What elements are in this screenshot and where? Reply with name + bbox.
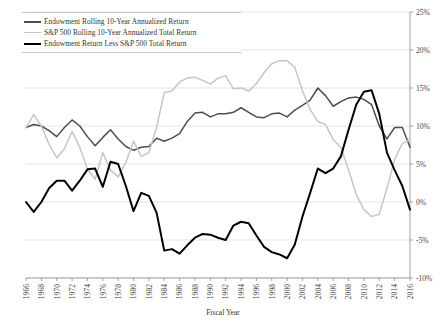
legend-label-endowment: Endowment Rolling 10-Year Annualized Ret… bbox=[44, 16, 189, 27]
x-tick-label: 1976 bbox=[99, 284, 108, 299]
legend-swatch-endowment bbox=[24, 21, 41, 23]
chart-legend: Endowment Rolling 10-Year Annualized Ret… bbox=[22, 12, 241, 53]
legend-item-endowment: Endowment Rolling 10-Year Annualized Ret… bbox=[24, 16, 239, 27]
x-tick-label: 2004 bbox=[314, 284, 323, 299]
x-tick-label: 2006 bbox=[329, 284, 338, 299]
legend-swatch-difference bbox=[24, 43, 41, 45]
x-tick-label: 1998 bbox=[268, 284, 277, 299]
x-tick-label: 2010 bbox=[360, 284, 369, 299]
x-tick-label: 1984 bbox=[160, 284, 169, 299]
legend-label-sp500: S&P 500 Rolling 10-Year Annualized Total… bbox=[44, 27, 197, 38]
x-tick-label: 1980 bbox=[129, 284, 138, 299]
x-tick-label: 1992 bbox=[221, 284, 230, 299]
y-tick-label: 5% bbox=[416, 160, 427, 169]
y-tick-label: 10% bbox=[416, 122, 431, 131]
y-tick-label: 25% bbox=[416, 8, 431, 17]
x-tick-label: 1988 bbox=[191, 284, 200, 299]
legend-swatch-sp500 bbox=[24, 32, 41, 33]
x-tick-label: 1994 bbox=[237, 284, 246, 299]
x-tick-label: 1968 bbox=[37, 284, 46, 299]
series-line-1 bbox=[26, 61, 410, 217]
legend-item-difference: Endowment Return Less S&P 500 Total Retu… bbox=[24, 38, 239, 49]
x-tick-label: 1974 bbox=[83, 284, 92, 299]
x-tick-label: 1966 bbox=[22, 284, 31, 299]
x-tick-label: 2012 bbox=[375, 284, 384, 299]
x-tick-label: 2016 bbox=[406, 284, 415, 299]
y-tick-label: 20% bbox=[416, 46, 431, 55]
y-tick-label: 15% bbox=[416, 84, 431, 93]
y-tick-label: -5% bbox=[416, 236, 429, 245]
x-tick-label: 1990 bbox=[206, 284, 215, 299]
x-tick-label: 2014 bbox=[390, 284, 399, 299]
chart-container: 25%20%15%10%5%0%-5%-10%19661968197019721… bbox=[0, 0, 446, 328]
y-tick-label: -10% bbox=[416, 274, 433, 283]
series-line-2 bbox=[26, 90, 410, 258]
legend-label-difference: Endowment Return Less S&P 500 Total Retu… bbox=[44, 38, 186, 49]
x-tick-label: 1982 bbox=[145, 284, 154, 299]
legend-item-sp500: S&P 500 Rolling 10-Year Annualized Total… bbox=[24, 27, 239, 38]
x-tick-label: 2002 bbox=[298, 284, 307, 299]
x-tick-label: 1986 bbox=[175, 284, 184, 299]
x-tick-label: 2000 bbox=[283, 284, 292, 299]
y-tick-label: 0% bbox=[416, 198, 427, 207]
x-tick-label: 1972 bbox=[68, 284, 77, 299]
x-axis-title: Fiscal Year bbox=[0, 308, 446, 317]
x-tick-label: 1978 bbox=[114, 284, 123, 299]
x-tick-label: 1970 bbox=[53, 284, 62, 299]
x-tick-label: 2008 bbox=[344, 284, 353, 299]
x-tick-label: 1996 bbox=[252, 284, 261, 299]
